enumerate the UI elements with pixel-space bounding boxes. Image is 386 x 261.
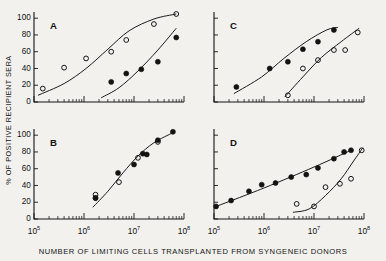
data-point-b-filled — [170, 129, 175, 134]
data-point-d-filled — [331, 156, 336, 161]
data-point-a-open — [84, 56, 89, 61]
data-point-b-filled — [144, 152, 149, 157]
data-point-b-open — [117, 180, 122, 185]
data-point-d-open — [323, 185, 328, 190]
data-point-c-filled — [285, 59, 290, 64]
data-point-d-filled — [229, 198, 234, 203]
panel-c: C — [214, 12, 364, 102]
data-point-a-open — [62, 65, 67, 70]
panel-a: 020406080100A — [17, 12, 184, 107]
curve-a-filled-fit — [101, 28, 176, 98]
data-point-a-open — [40, 86, 45, 91]
data-point-a-open — [124, 38, 129, 43]
data-point-c-filled — [331, 27, 336, 32]
data-point-c-filled — [315, 39, 320, 44]
y-tick-label-80: 80 — [22, 30, 32, 39]
data-point-d-filled — [342, 149, 347, 154]
x-tick-label-1e5: 105 — [28, 225, 40, 236]
data-point-d-open — [349, 176, 354, 181]
x-tick-label-1e7: 107 — [308, 225, 320, 236]
data-point-a-filled — [155, 59, 160, 64]
x-tick-exponent: 5 — [217, 225, 220, 231]
y-tick-label-20: 20 — [22, 80, 32, 89]
panel-d: 105106107108D — [208, 129, 370, 236]
data-point-d-filled — [304, 172, 309, 177]
data-point-d-filled — [315, 165, 320, 170]
curve-b-fit — [93, 133, 173, 208]
data-point-d-filled — [246, 189, 251, 194]
x-tick-label-1e7: 107 — [128, 225, 140, 236]
curve-d-filled-fit — [214, 150, 351, 207]
curve-d-open-fit — [293, 148, 363, 213]
x-tick-label-1e5: 105 — [208, 225, 220, 236]
panel-label-d: D — [230, 137, 237, 148]
y-axis-title: % OF POSITIVE RECIPIENT SERA — [4, 55, 13, 184]
data-point-a-filled — [124, 71, 129, 76]
data-point-d-open — [338, 181, 343, 186]
data-point-b-filled — [132, 162, 137, 167]
data-point-d-open — [294, 202, 299, 207]
panel-label-b: B — [50, 137, 57, 148]
data-point-d-filled — [273, 180, 278, 185]
y-tick-label-20: 20 — [22, 197, 32, 206]
y-tick-label-40: 40 — [22, 181, 32, 190]
data-point-b-filled — [116, 170, 121, 175]
x-tick-label-1e6: 106 — [78, 225, 90, 236]
data-point-c-open — [332, 48, 337, 53]
x-tick-label-1e6: 106 — [258, 225, 270, 236]
data-point-a-filled — [109, 79, 114, 84]
x-axis-title: NUMBER OF LIMITING CELLS TRANSPLANTED FR… — [39, 247, 348, 256]
figure-container: 020406080100A020406080100105106107108BC1… — [0, 0, 386, 261]
data-point-b-filled — [155, 138, 160, 143]
x-tick-label-1e8: 108 — [358, 225, 370, 236]
panel-b: 020406080100105106107108B — [17, 129, 190, 236]
data-point-c-filled — [300, 47, 305, 52]
y-tick-label-0: 0 — [26, 97, 31, 106]
y-tick-label-60: 60 — [22, 47, 32, 56]
y-tick-label-0: 0 — [26, 214, 31, 223]
data-point-a-filled — [139, 67, 144, 72]
x-tick-exponent: 6 — [87, 225, 90, 231]
x-tick-exponent: 7 — [317, 225, 320, 231]
curve-c-open-fit — [285, 28, 359, 97]
y-tick-label-100: 100 — [17, 130, 31, 139]
panel-label-a: A — [50, 20, 57, 31]
data-point-c-filled — [267, 66, 272, 71]
data-point-d-filled — [349, 148, 354, 153]
data-point-b-filled — [93, 196, 98, 201]
x-tick-exponent: 5 — [37, 225, 40, 231]
data-point-c-open — [343, 48, 348, 53]
x-tick-exponent: 6 — [267, 225, 270, 231]
data-point-c-open — [301, 66, 306, 71]
data-point-a-filled — [174, 35, 179, 40]
y-tick-label-100: 100 — [17, 13, 31, 22]
data-point-c-filled — [234, 84, 239, 89]
data-point-d-filled — [214, 204, 219, 209]
x-tick-exponent: 8 — [187, 225, 190, 231]
data-point-d-filled — [289, 175, 294, 180]
panel-label-c: C — [230, 20, 237, 31]
y-tick-label-60: 60 — [22, 164, 32, 173]
data-point-a-open — [152, 22, 157, 27]
data-point-a-open — [109, 49, 114, 54]
x-tick-label-1e8: 108 — [178, 225, 190, 236]
data-point-c-open — [316, 58, 321, 63]
x-tick-exponent: 8 — [367, 225, 370, 231]
y-tick-label-40: 40 — [22, 64, 32, 73]
y-tick-label-80: 80 — [22, 147, 32, 156]
data-point-d-filled — [259, 182, 264, 187]
four-panel-scatter-figure: 020406080100A020406080100105106107108BC1… — [0, 0, 386, 261]
data-point-c-open — [355, 30, 360, 35]
x-tick-exponent: 7 — [137, 225, 140, 231]
